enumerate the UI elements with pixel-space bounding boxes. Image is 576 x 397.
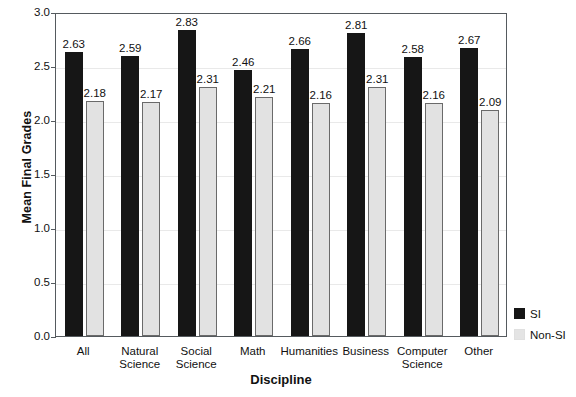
bar-nonsi [86,101,104,336]
bar-value-label: 2.81 [340,20,372,32]
bar-si [460,48,478,336]
bar-value-label: 2.46 [227,57,259,69]
y-axis-tick-label: 3.0 [8,7,50,19]
bar-value-label: 2.58 [397,44,429,56]
bar-value-label: 2.18 [79,88,111,100]
bar-value-label: 2.31 [361,74,393,86]
bar-value-label: 2.16 [305,90,337,102]
legend: SI Non-SI [514,303,566,345]
bar-nonsi [142,102,160,336]
bar-nonsi [368,87,386,336]
bar-value-label: 2.16 [418,90,450,102]
legend-swatch-nonsi-icon [514,329,525,340]
bar-value-label: 2.09 [474,97,506,109]
bar-si [234,70,252,336]
y-axis-tick-label: 1.5 [8,169,50,181]
bar-nonsi [481,110,499,336]
bar-nonsi [312,103,330,336]
legend-item-nonsi: Non-SI [514,324,566,345]
bar-nonsi [425,103,443,336]
y-axis-tick-label: 0.5 [8,277,50,289]
legend-label-si: SI [530,308,541,320]
bar-nonsi [199,87,217,336]
plot-area: 2.632.182.592.172.832.312.462.212.662.16… [55,13,507,337]
x-axis-category-label: Other [443,345,515,358]
x-axis-title: Discipline [55,372,507,387]
y-axis-tick-label: 1.0 [8,223,50,235]
bar-value-label: 2.83 [171,17,203,29]
y-axis-tick-label: 2.0 [8,115,50,127]
y-axis-tick-label: 2.5 [8,61,50,73]
legend-swatch-si-icon [514,308,525,319]
legend-label-nonsi: Non-SI [530,329,566,341]
bar-value-label: 2.66 [284,36,316,48]
y-axis-tick-label: 0.0 [8,331,50,343]
bar-value-label: 2.63 [58,39,90,51]
bar-value-label: 2.31 [192,74,224,86]
bar-value-label: 2.21 [248,84,280,96]
bar-value-label: 2.67 [453,35,485,47]
bar-value-label: 2.59 [114,43,146,55]
bar-nonsi [255,97,273,336]
bar-value-label: 2.17 [135,89,167,101]
bar-chart: Mean Final Grades 0.00.51.01.52.02.53.0 … [0,0,576,397]
legend-item-si: SI [514,303,566,324]
